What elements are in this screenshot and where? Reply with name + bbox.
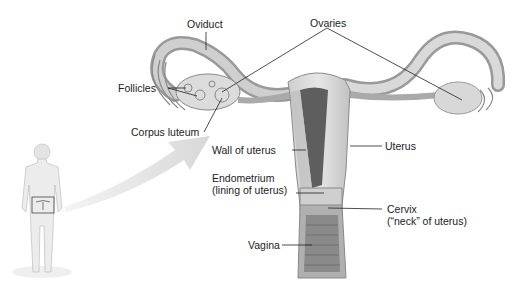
left-ovary: [176, 74, 240, 110]
label-endometrium: Endometrium (lining of uterus): [212, 172, 287, 196]
label-follicles: Follicles: [118, 82, 156, 94]
human-figure-icon: [12, 144, 72, 278]
label-corpus-luteum: Corpus luteum: [131, 126, 199, 138]
label-ovaries: Ovaries: [310, 17, 346, 29]
reproductive-system-diagram: Oviduct Ovaries Follicles Corpus luteum …: [0, 0, 524, 300]
arrow-icon: [64, 136, 210, 212]
label-cervix: Cervix (“neck” of uterus): [387, 203, 467, 227]
label-wall-of-uterus: Wall of uterus: [212, 144, 276, 156]
label-uterus: Uterus: [385, 140, 416, 152]
label-endometrium-line1: Endometrium: [212, 172, 287, 184]
label-cervix-line1: Cervix: [387, 203, 467, 215]
label-vagina: Vagina: [248, 239, 280, 251]
label-cervix-line2: (“neck” of uterus): [387, 215, 467, 227]
label-oviduct: Oviduct: [187, 18, 223, 30]
label-endometrium-line2: (lining of uterus): [212, 184, 287, 196]
